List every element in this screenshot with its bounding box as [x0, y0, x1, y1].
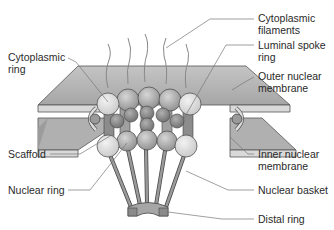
- label-inner-nuclear-membrane: Inner nuclear membrane: [258, 148, 319, 172]
- distal-ring: [128, 203, 168, 217]
- label-distal-ring: Distal ring: [258, 213, 305, 225]
- label-luminal-spoke-ring: Luminal spoke ring: [258, 39, 326, 63]
- label-outer-nuclear-membrane: Outer nuclear membrane: [258, 70, 322, 94]
- nuclear-basket: [108, 145, 186, 207]
- label-cytoplasmic-filaments: Cytoplasmic filaments: [258, 12, 315, 36]
- label-scaffold: Scaffold: [8, 148, 46, 160]
- label-nuclear-basket: Nuclear basket: [258, 184, 328, 196]
- nuclear-pore-diagram: Cytoplasmic ring Scaffold Nuclear ring C…: [0, 0, 334, 230]
- label-nuclear-ring: Nuclear ring: [8, 184, 65, 196]
- label-cytoplasmic-ring: Cytoplasmic ring: [8, 51, 65, 75]
